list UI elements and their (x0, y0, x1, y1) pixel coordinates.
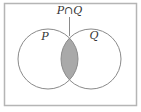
set-q-label: Q (89, 29, 98, 42)
venn-diagram: P∩Q P Q (0, 0, 141, 112)
set-p-label: P (40, 30, 49, 43)
intersection-label: P∩Q (56, 4, 83, 17)
